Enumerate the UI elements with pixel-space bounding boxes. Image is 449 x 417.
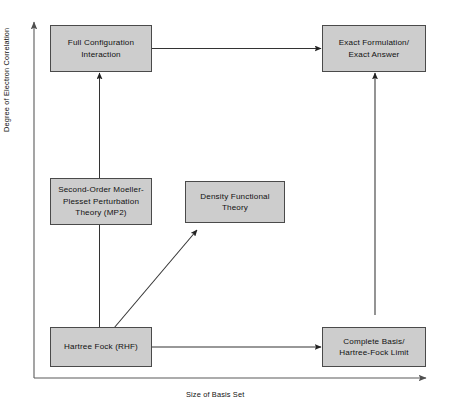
node-mp2[interactable]: Second-Order Moeller- Plesset Perturbati… [50, 178, 152, 225]
node-label: Density Functional Theory [197, 191, 273, 214]
x-axis-label: Size of Basis Set [186, 390, 244, 399]
node-density-functional-theory[interactable]: Density Functional Theory [185, 181, 285, 223]
node-exact-formulation[interactable]: Exact Formulation/ Exact Answer [322, 25, 426, 72]
node-label: Exact Formulation/ Exact Answer [336, 37, 412, 60]
y-axis-label: Degree of Electron Correlation [2, 28, 11, 132]
node-label: Complete Basis/ Hartree-Fock Limit [336, 336, 411, 359]
node-label: Second-Order Moeller- Plesset Perturbati… [55, 184, 147, 218]
node-label: Full Configuration Interaction [65, 37, 137, 60]
node-label: Hartree Fock (RHF) [61, 341, 141, 352]
node-full-configuration-interaction[interactable]: Full Configuration Interaction [50, 25, 152, 72]
method-hierarchy-diagram: Full Configuration Interaction Exact For… [0, 0, 449, 417]
node-complete-basis[interactable]: Complete Basis/ Hartree-Fock Limit [322, 327, 426, 367]
edge-hf-to-dft [114, 230, 197, 328]
node-hartree-fock[interactable]: Hartree Fock (RHF) [50, 327, 152, 367]
